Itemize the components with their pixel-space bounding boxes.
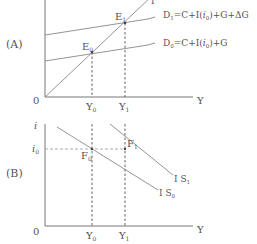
d1-leader xyxy=(148,17,155,19)
is0-label: I S0 xyxy=(159,188,176,199)
panel-b-label: (B) xyxy=(6,167,23,180)
f0-label: F0 xyxy=(81,150,92,162)
panel-b-y-label: i xyxy=(34,120,37,131)
line-45-degree xyxy=(45,0,152,97)
is0-curve xyxy=(57,127,158,190)
d0-leader xyxy=(148,43,155,45)
panel-a: (A) 0 Y I E0 E1 Y0 Y1 D1=C+I(i0)+G+ΔG D0… xyxy=(6,0,249,113)
e0-label: E0 xyxy=(82,41,93,53)
i0-label: i0 xyxy=(32,143,39,155)
panel-a-x-label: Y xyxy=(196,95,204,106)
line-45-label: I xyxy=(151,0,155,6)
panel-b-origin: 0 xyxy=(33,226,39,237)
panel-a-y0-label: Y0 xyxy=(85,101,97,113)
f1-point xyxy=(124,148,126,150)
panel-b-y0-label: Y0 xyxy=(85,230,97,242)
d0-equation-label: D0=C+I(i0)+G xyxy=(163,38,227,49)
panel-a-origin: 0 xyxy=(33,95,39,106)
d1-equation-label: D1=C+I(i0)+G+ΔG xyxy=(163,10,249,21)
d1-line xyxy=(45,19,148,35)
keynesian-cross-is-diagram: (A) 0 Y I E0 E1 Y0 Y1 D1=C+I(i0)+G+ΔG D0… xyxy=(0,0,257,244)
panel-a-y1-label: Y1 xyxy=(118,101,129,113)
f0-point xyxy=(91,148,93,150)
e1-label: E1 xyxy=(115,11,126,23)
panel-b-y1-label: Y1 xyxy=(118,230,129,242)
is1-curve xyxy=(110,124,173,175)
d0-line xyxy=(45,45,148,61)
panel-b-x-label: Y xyxy=(196,224,204,235)
f1-label: F1 xyxy=(127,138,138,150)
panel-b: (B) 0 Y i i0 F0 F1 I S1 I S0 Y0 Y1 xyxy=(6,120,204,242)
is1-label: I S1 xyxy=(174,174,190,185)
panel-a-label: (A) xyxy=(6,38,23,51)
